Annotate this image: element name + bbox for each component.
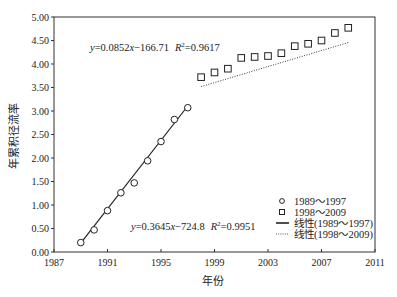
x-tick-label: 2007 [312, 257, 332, 268]
x-tick-label: 2011 [365, 257, 385, 268]
y-tick-label: 4.00 [32, 59, 50, 70]
trendline-dotted [201, 43, 348, 87]
square-data-point [211, 69, 218, 76]
x-tick-label: 1995 [151, 257, 171, 268]
scatter-chart: 0.000.501.001.502.002.503.003.504.004.50… [0, 0, 397, 297]
square-data-point [305, 40, 312, 47]
circle-data-point [104, 207, 111, 214]
x-tick-label: 1987 [44, 257, 64, 268]
x-tick-label: 1991 [98, 257, 118, 268]
x-tick-label: 2003 [258, 257, 278, 268]
y-tick-label: 3.00 [32, 106, 50, 117]
circle-data-point [118, 189, 125, 196]
circle-data-point [158, 138, 165, 145]
y-tick-label: 3.50 [32, 82, 50, 93]
circle-data-point [131, 180, 138, 187]
circle-data-point [144, 158, 151, 165]
y-tick-label: 0.00 [32, 247, 50, 258]
square-data-point [198, 74, 205, 81]
circle-data-point [91, 227, 98, 234]
square-data-point [332, 30, 339, 37]
square-marker-icon [280, 210, 285, 215]
y-tick-label: 5.00 [32, 12, 50, 23]
y-tick-label: 1.50 [32, 176, 50, 187]
square-data-point [238, 55, 245, 62]
circle-data-point [184, 104, 191, 111]
equation-lower: y=0.3645x−724.8R2=0.9951 [130, 220, 255, 232]
square-data-point [265, 53, 272, 60]
legend-item-linear-2: 线性(1998～2009) [276, 228, 373, 241]
x-axis-title: 年份 [202, 274, 224, 287]
y-tick-label: 0.50 [32, 223, 50, 234]
y-tick-label: 4.50 [32, 35, 50, 46]
x-tick-label: 1999 [205, 257, 225, 268]
y-tick-label: 1.00 [32, 200, 50, 211]
y-axis-title: 年累积径流率 [7, 103, 20, 169]
square-data-point [345, 25, 352, 32]
circle-data-point [77, 239, 84, 246]
y-tick-label: 2.50 [32, 129, 50, 140]
legend-label: 1998～2009 [294, 207, 346, 218]
y-axis-ticks: 0.000.501.001.502.002.503.003.504.004.50… [32, 12, 55, 258]
equation-upper: y=0.0852x−166.71R2=0.9617 [89, 41, 220, 53]
square-data-point [318, 37, 325, 44]
y-tick-label: 2.00 [32, 153, 50, 164]
legend-label: 线性(1998～2009) [294, 228, 373, 241]
square-data-point [225, 65, 232, 72]
legend-item-square-series: 1998～2009 [280, 207, 347, 218]
legend-label: 1989～1997 [294, 196, 346, 207]
square-data-point [278, 50, 285, 57]
legend: 1989～1997 1998～2009 线性(1989～1997) 线性(199… [276, 196, 373, 241]
square-data-point [251, 54, 258, 61]
circle-data-point [171, 116, 178, 123]
circle-marker-icon [280, 199, 285, 204]
legend-item-circle-series: 1989～1997 [280, 196, 346, 207]
square-data-point [291, 43, 298, 50]
